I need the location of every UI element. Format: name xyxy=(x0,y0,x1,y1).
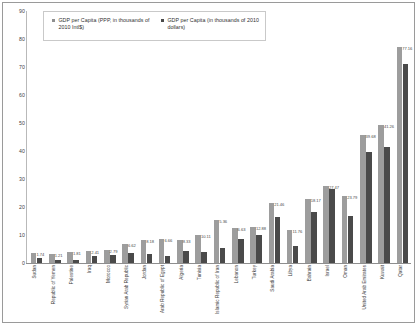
x-axis-label: Bahrain xyxy=(307,265,312,281)
bar-value-label: 41.26 xyxy=(384,125,394,129)
x-axis-label: Libya xyxy=(288,265,293,276)
bar-group[interactable]: 1.21 xyxy=(49,11,62,263)
x-axis-label: Islamic Republic of Iran xyxy=(215,265,220,314)
bar-group[interactable]: 5.36 xyxy=(213,11,226,263)
bar-nominal[interactable] xyxy=(73,260,79,263)
bar-nominal[interactable] xyxy=(37,258,43,263)
legend-label: GDP per Capita (in thousands of 2010 dol… xyxy=(167,17,261,31)
x-axis-label: Kuwait xyxy=(380,265,385,279)
bar-nominal[interactable] xyxy=(275,217,281,263)
bar-nominal[interactable] xyxy=(348,216,354,263)
bar-ppp[interactable] xyxy=(287,230,293,263)
bar-value-label: 1.21 xyxy=(55,254,63,258)
bar-nominal[interactable] xyxy=(165,256,171,263)
x-axis-label: Turkey xyxy=(252,265,257,279)
bar-value-label: 12.88 xyxy=(256,227,266,231)
bar-group[interactable]: 2.41 xyxy=(85,11,98,263)
bar-group[interactable]: 41.26 xyxy=(378,11,391,263)
bar-nominal[interactable] xyxy=(147,254,153,263)
bar-value-label: 1.74 xyxy=(36,253,44,257)
x-axis-line xyxy=(26,263,411,264)
bar-group[interactable]: 6.66 xyxy=(158,11,171,263)
chart-plot-wrapper: 0102030405060708090 1.741.211.812.412.79… xyxy=(3,3,414,322)
bar-group[interactable]: 27.47 xyxy=(323,11,336,263)
bar-group[interactable]: 2.79 xyxy=(103,11,116,263)
x-axis-label: Jordan xyxy=(142,265,147,279)
bar-group[interactable]: 8.33 xyxy=(177,11,190,263)
bar-group[interactable]: 8.18 xyxy=(140,11,153,263)
legend-label: GDP per Capita (PPP, in thousands of 201… xyxy=(58,17,152,31)
bar-ppp[interactable] xyxy=(397,47,403,263)
bar-nominal[interactable] xyxy=(311,212,317,263)
y-axis-tick-labels: 0102030405060708090 xyxy=(7,11,25,263)
bar-value-label: 1.81 xyxy=(73,252,81,256)
bar-group[interactable]: 6.62 xyxy=(122,11,135,263)
bar-nominal[interactable] xyxy=(238,239,244,263)
x-axis-label: Palestine xyxy=(69,265,74,284)
bar-ppp[interactable] xyxy=(232,228,238,263)
x-axis-label: United Arab Emirates xyxy=(362,265,367,309)
bar-nominal[interactable] xyxy=(183,251,189,263)
bar-group[interactable]: 1.81 xyxy=(67,11,80,263)
x-axis-label: Republic of Yemen xyxy=(51,265,56,304)
bar-ppp[interactable] xyxy=(305,199,311,263)
y-axis-tick: 10 xyxy=(7,233,25,238)
bar-nominal[interactable] xyxy=(201,252,207,264)
bar-value-label: 11.76 xyxy=(292,230,302,234)
bar-value-label: 77.16 xyxy=(402,47,412,51)
x-axis-label: Syrian Arab Republic xyxy=(124,265,129,309)
bar-ppp[interactable] xyxy=(378,125,384,263)
bar-ppp[interactable] xyxy=(195,235,201,263)
bar-nominal[interactable] xyxy=(403,64,409,263)
legend-swatch-icon xyxy=(161,19,164,22)
y-axis-tick: 40 xyxy=(7,149,25,154)
bar-group[interactable]: 10.11 xyxy=(195,11,208,263)
bar-nominal[interactable] xyxy=(128,253,134,263)
x-axis-label: Iraq xyxy=(87,265,92,273)
y-axis-tick: 30 xyxy=(7,177,25,182)
bar-ppp[interactable] xyxy=(269,203,275,263)
chart-legend: GDP per Capita (PPP, in thousands of 201… xyxy=(43,11,266,41)
bars-plot-area: 1.741.211.812.412.796.628.186.668.3310.1… xyxy=(27,11,411,263)
bar-value-label: 10.11 xyxy=(201,235,211,239)
bar-ppp[interactable] xyxy=(360,135,366,263)
x-axis-label: Lebanon xyxy=(234,265,239,283)
bar-ppp[interactable] xyxy=(342,196,348,263)
bar-group[interactable]: 23.79 xyxy=(341,11,354,263)
bar-group[interactable]: 39.68 xyxy=(359,11,372,263)
bar-value-label: 2.41 xyxy=(91,251,99,255)
bar-group[interactable]: 21.46 xyxy=(268,11,281,263)
bar-value-label: 6.62 xyxy=(128,244,136,248)
bar-nominal[interactable] xyxy=(92,256,98,263)
bar-value-label: 8.33 xyxy=(183,240,191,244)
bar-group[interactable]: 77.16 xyxy=(396,11,409,263)
legend-entry-ppp: GDP per Capita (PPP, in thousands of 201… xyxy=(52,17,152,31)
y-axis-tick: 70 xyxy=(7,65,25,70)
bar-nominal[interactable] xyxy=(256,235,262,263)
bar-value-label: 21.46 xyxy=(274,203,284,207)
bar-nominal[interactable] xyxy=(366,152,372,263)
bar-value-label: 6.66 xyxy=(164,239,172,243)
bar-group[interactable]: 18.17 xyxy=(305,11,318,263)
bar-value-label: 2.79 xyxy=(110,250,118,254)
bar-nominal[interactable] xyxy=(329,189,335,263)
x-axis-label: Oman xyxy=(343,265,348,278)
bar-nominal[interactable] xyxy=(55,260,61,263)
bar-value-label: 6.63 xyxy=(238,228,246,232)
bar-value-label: 5.36 xyxy=(219,220,227,224)
bar-nominal[interactable] xyxy=(220,248,226,263)
bar-group[interactable]: 1.74 xyxy=(30,11,43,263)
bar-nominal[interactable] xyxy=(293,246,299,263)
y-axis-tick: 0 xyxy=(7,261,25,266)
bar-ppp[interactable] xyxy=(250,227,256,263)
y-axis-tick: 50 xyxy=(7,121,25,126)
bar-nominal[interactable] xyxy=(110,255,116,263)
bar-ppp[interactable] xyxy=(323,186,329,263)
bar-nominal[interactable] xyxy=(384,147,390,263)
legend-swatch-icon xyxy=(52,19,55,22)
bar-group[interactable]: 6.63 xyxy=(231,11,244,263)
y-axis-tick: 80 xyxy=(7,37,25,42)
bar-group[interactable]: 11.76 xyxy=(286,11,299,263)
bar-group[interactable]: 12.88 xyxy=(250,11,263,263)
bar-ppp[interactable] xyxy=(214,220,220,263)
